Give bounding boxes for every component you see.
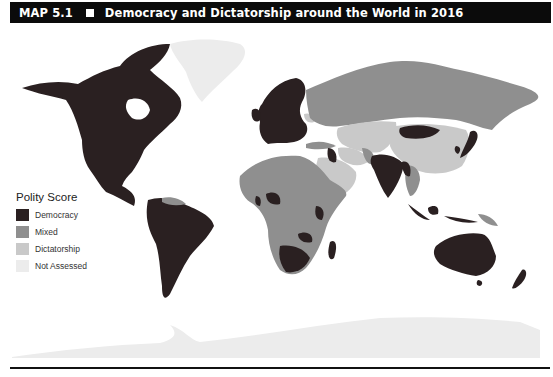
legend-title: Polity Score [16,191,87,203]
region-south-america [147,198,214,298]
bottom-rule-divider [10,367,550,369]
legend-label-democracy: Democracy [35,210,78,220]
map-number: MAP 5.1 [19,6,73,20]
legend-swatch-mixed [16,226,29,238]
region-madagascar [328,241,336,259]
square-separator-icon [86,9,94,17]
region-india [371,154,404,198]
region-antarctica [12,317,540,358]
region-australia [434,233,496,276]
legend-swatch-dictatorship [16,243,29,255]
legend-label-not-assessed: Not Assessed [35,261,87,271]
region-papua-new-guinea [478,214,498,226]
legend-item-democracy: Democracy [16,206,87,223]
legend: Polity Score Democracy Mixed Dictatorshi… [16,191,87,274]
region-indonesia [408,204,478,223]
region-new-zealand [512,270,526,289]
legend-swatch-not-assessed [16,260,29,272]
legend-item-not-assessed: Not Assessed [16,257,87,274]
region-turkey [306,142,336,149]
region-europe [259,78,308,144]
map-title-bar: MAP 5.1 Democracy and Dictatorship aroun… [10,2,551,23]
map-title: Democracy and Dictatorship around the Wo… [105,6,464,20]
region-russia [306,61,538,130]
region-greenland [170,40,245,103]
region-north-america [22,44,181,206]
legend-swatch-democracy [16,209,29,221]
legend-item-dictatorship: Dictatorship [16,240,87,257]
legend-label-mixed: Mixed [35,227,58,237]
legend-item-mixed: Mixed [16,223,87,240]
legend-label-dictatorship: Dictatorship [35,244,80,254]
region-tasmania [477,280,482,286]
